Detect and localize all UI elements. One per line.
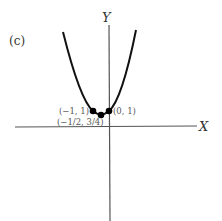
panel-label: (c) [9, 34, 25, 48]
y-axis [109, 25, 110, 221]
point-neg1-1 [90, 108, 97, 115]
point-label-0-1: (0, 1) [113, 106, 136, 116]
parabola-curve [63, 30, 136, 115]
point-label-vertex: (−1/2, 3/4) [57, 117, 104, 127]
point-0-1 [106, 108, 113, 115]
point-label-neg1-1: (−1, 1) [59, 106, 89, 116]
x-axis [15, 126, 197, 127]
x-axis-label: X [199, 119, 208, 134]
y-axis-label: Y [102, 10, 111, 25]
graph-canvas [0, 0, 222, 221]
